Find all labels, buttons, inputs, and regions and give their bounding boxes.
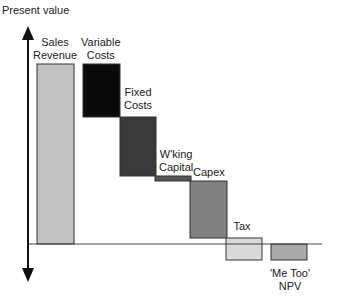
bar-5 (226, 238, 262, 260)
bar-label: Tax (234, 220, 251, 233)
arrow-down-icon (22, 268, 34, 282)
bar-label: Capex (193, 166, 225, 179)
bar-label: FixedCosts (124, 86, 152, 112)
bar-4 (190, 181, 227, 238)
bar-label: SalesRevenue (33, 36, 77, 62)
bar-label: VariableCosts (81, 36, 121, 62)
bar-label: 'Me Too'NPV (270, 267, 310, 293)
bar-0 (37, 64, 74, 244)
bar-2 (120, 117, 156, 176)
bar-3 (155, 176, 191, 181)
bar-6 (271, 244, 307, 260)
bar-label: W'kingCapital (159, 148, 193, 174)
bar-1 (83, 64, 120, 117)
